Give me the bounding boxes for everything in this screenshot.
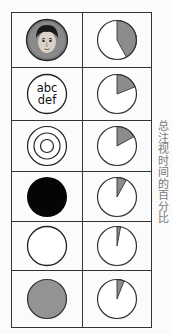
white-circle-icon: [25, 224, 69, 268]
stimulus-cell-gray: [12, 271, 83, 327]
pie-cell-face: [83, 13, 151, 68]
stimulus-cell-black: [12, 172, 83, 222]
stimulus-cell-white: [12, 222, 83, 271]
y-axis-label: 总注视时间的百分比: [155, 120, 169, 232]
stimulus-cell-text: abc def: [12, 68, 83, 121]
pie-chart-black: [95, 175, 139, 219]
gray-circle-icon: [25, 277, 69, 321]
stimulus-cell-bullseye: [12, 121, 83, 172]
pie-cell-black: [83, 172, 151, 222]
pie-cell-bullseye: [83, 121, 151, 172]
pie-cell-white: [83, 222, 151, 271]
text-circle-icon: abc def: [25, 72, 69, 116]
pie-cell-gray: [83, 271, 151, 327]
pie-chart-bullseye: [95, 124, 139, 168]
face-icon: [25, 18, 69, 62]
black-circle-icon: [25, 175, 69, 219]
bullseye-icon: [25, 124, 69, 168]
stimulus-cell-face: [12, 13, 83, 68]
pie-cell-text: [83, 68, 151, 121]
stimulus-fixation-table: abc def: [11, 12, 152, 328]
text-line-2: def: [38, 93, 57, 107]
pie-chart-gray: [95, 277, 139, 321]
pie-chart-text: [95, 72, 139, 116]
pie-chart-white: [95, 224, 139, 268]
pie-chart-face: [95, 18, 139, 62]
